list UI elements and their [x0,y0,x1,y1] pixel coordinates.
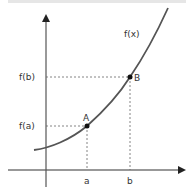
function-curve [34,8,168,150]
y-label-fa: f(a) [19,121,35,131]
point-a-label: A [83,113,90,123]
x-label-a: a [84,176,90,186]
function-diagram: f(x) A B f(b) f(a) a b [0,0,194,193]
point-a [85,124,90,129]
cropped-header-text [8,0,186,3]
curve-label: f(x) [124,29,140,39]
y-label-fb: f(b) [19,72,35,82]
x-label-b: b [127,176,133,186]
point-b-label: B [134,73,140,83]
point-b [128,75,133,80]
